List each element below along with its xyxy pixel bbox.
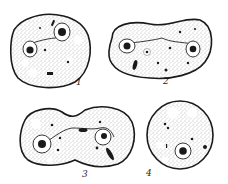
cell-3: [20, 107, 134, 167]
panel-label-3: 3: [82, 169, 88, 179]
panel-label-4: 4: [146, 168, 152, 178]
panel-label-1: 1: [76, 77, 82, 87]
cell-illustration-figure: 1 2 3 4: [0, 0, 228, 184]
cell-4: [147, 101, 213, 169]
panel-label-2: 2: [163, 76, 169, 86]
cell-2: [109, 19, 212, 78]
figure-svg: [0, 0, 228, 184]
